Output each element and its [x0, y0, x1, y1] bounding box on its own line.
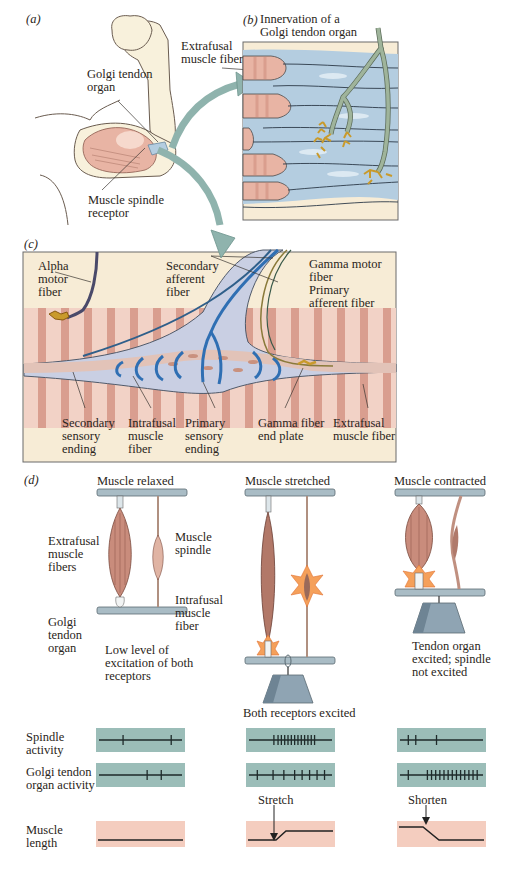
length-trace-stretched: [246, 821, 335, 847]
spindle-trace-stretched: [246, 728, 335, 752]
golgi-trace-contracted: [397, 763, 486, 787]
row-label-spindle-activity: Spindle activity: [26, 731, 64, 757]
row-label-muscle-length: Muscle length: [26, 824, 63, 850]
length-trace-contracted: [397, 821, 486, 847]
muscle-stretched-illustration: [243, 485, 343, 705]
caption-relaxed: Low level of excitation of both receptor…: [105, 644, 193, 683]
caption-stretched: Both receptors excited: [243, 707, 355, 720]
panel-b-letter: (b): [243, 13, 258, 28]
label-primary-afferent-fiber: Primary afferent fiber: [309, 284, 374, 310]
label-intrafusal-muscle-fiber-c: Intrafusal muscle fiber: [128, 417, 176, 456]
label-golgi-tendon-organ-a: Golgi tendon organ: [87, 68, 153, 94]
row-label-golgi-activity: Golgi tendon organ activity: [26, 766, 95, 792]
label-alpha-motor-fiber: Alpha motor fiber: [38, 260, 69, 299]
label-intrafusal-muscle-fiber-d: Intrafusal muscle fiber: [175, 594, 223, 633]
golgi-trace-stretched: [246, 763, 335, 787]
label-extrafusal-muscle-fiber-c: Extrafusal muscle fiber: [333, 417, 395, 443]
panel-d-letter: (d): [24, 473, 39, 488]
label-muscle-spindle-receptor: Muscle spindle receptor: [88, 194, 164, 220]
label-golgi-tendon-organ-d: Golgi tendon organ: [48, 616, 82, 655]
label-extrafusal-muscle-fiber-a: Extrafusal muscle fiber: [181, 40, 243, 66]
label-muscle-spindle-d: Muscle spindle: [175, 531, 212, 557]
stretch-arrow-icon: [269, 805, 279, 841]
muscle-contracted-illustration: [393, 485, 493, 645]
shorten-arrow-icon: [421, 805, 431, 827]
label-gamma-fiber-end-plate: Gamma fiber end plate: [258, 417, 324, 443]
golgi-trace-relaxed: [96, 763, 185, 787]
label-gamma-motor-fiber: Gamma motor fiber: [309, 258, 382, 284]
label-secondary-sensory-ending: Secondary sensory ending: [62, 417, 115, 456]
spindle-trace-relaxed: [96, 728, 185, 752]
panel-c-letter: (c): [24, 237, 38, 252]
label-primary-sensory-ending: Primary sensory ending: [185, 417, 225, 456]
label-extrafusal-muscle-fibers-d: Extrafusal muscle fibers: [48, 535, 99, 574]
label-secondary-afferent-fiber: Secondary afferent fiber: [166, 260, 219, 299]
caption-contracted: Tendon organ excited; spindle not excite…: [412, 640, 491, 679]
panel-b-title: Innervation of a Golgi tendon organ: [260, 13, 357, 39]
length-trace-relaxed: [96, 821, 185, 847]
golgi-tendon-organ-illustration: [243, 42, 401, 222]
spindle-trace-contracted: [397, 728, 486, 752]
